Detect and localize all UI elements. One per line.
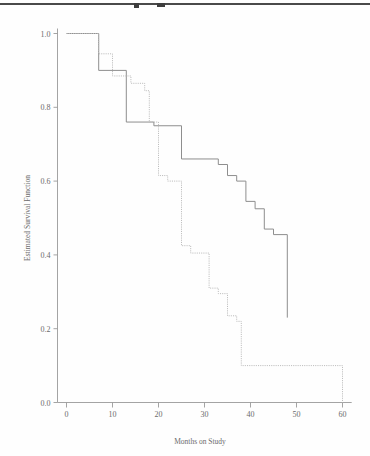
kaplan-meier-plot: 0.00.20.40.60.81.0 0102030405060 Months … [0, 0, 370, 456]
y-tick-label: 0.4 [41, 251, 51, 260]
x-tick-label: 60 [339, 410, 347, 419]
survival-chart-figure: 0.00.20.40.60.81.0 0102030405060 Months … [0, 0, 370, 456]
y-tick-label: 0.2 [41, 325, 51, 334]
survival-curve-dotted [67, 34, 343, 403]
y-tick-label: 0.0 [41, 399, 51, 408]
x-axis: 0102030405060 [58, 403, 352, 419]
x-tick-label: 10 [109, 410, 117, 419]
y-axis: 0.00.20.40.60.81.0 [41, 29, 58, 408]
x-tick-label: 0 [65, 410, 69, 419]
y-tick-label: 1.0 [41, 30, 51, 39]
x-tick-label: 40 [247, 410, 255, 419]
survival-curve-solid [67, 34, 288, 318]
x-axis-title: Months on Study [174, 437, 226, 446]
y-tick-label: 0.6 [41, 177, 51, 186]
x-tick-label: 20 [155, 410, 163, 419]
y-axis-title: Estimated Survival Function [23, 175, 32, 261]
x-tick-label: 30 [201, 410, 209, 419]
y-tick-label: 0.8 [41, 103, 51, 112]
x-axis-ticks: 0102030405060 [65, 403, 347, 419]
page-background: 0.00.20.40.60.81.0 0102030405060 Months … [0, 0, 370, 456]
y-axis-ticks: 0.00.20.40.60.81.0 [41, 30, 58, 408]
x-tick-label: 50 [293, 410, 301, 419]
